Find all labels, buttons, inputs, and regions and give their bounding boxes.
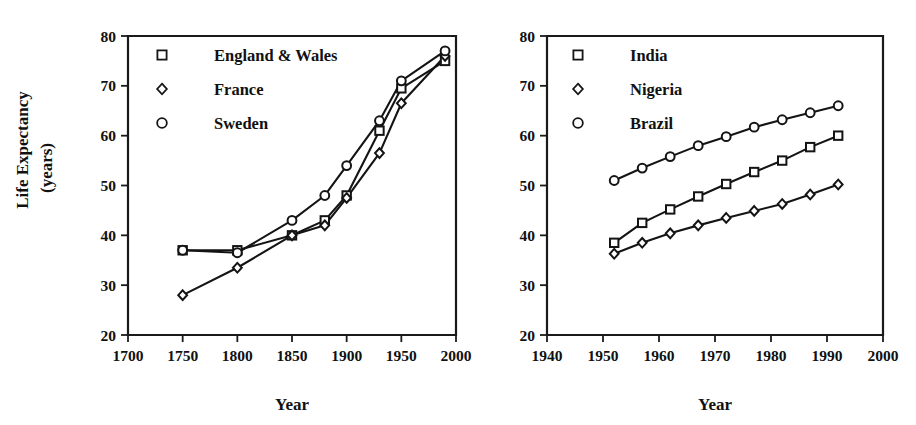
x-tick-label-1700: 1700 <box>113 347 144 364</box>
data-point-sweden-1900 <box>342 161 351 170</box>
data-point-england-wales-1930 <box>375 126 383 134</box>
data-point-india-1992 <box>834 131 842 139</box>
y-tick-label-70: 70 <box>101 77 117 94</box>
y-axis-title-left-line2: (years) <box>37 143 56 193</box>
data-point-brazil-1982 <box>778 115 787 124</box>
data-point-nigeria-1962 <box>666 229 675 239</box>
x-tick-label-1940: 1940 <box>532 347 563 364</box>
x-tick-label-1980: 1980 <box>756 347 787 364</box>
x-axis-title-right: Year <box>698 395 732 414</box>
legend-label-india: India <box>630 46 668 65</box>
legend-marker-india <box>573 50 582 59</box>
y-tick-label-30: 30 <box>520 277 536 294</box>
data-point-brazil-1957 <box>638 164 647 173</box>
x-tick-label-1950: 1950 <box>386 347 417 364</box>
y-tick-label-20: 20 <box>520 327 536 344</box>
data-point-india-1987 <box>806 143 814 151</box>
life-expectancy-figure: 1700175018001850190019502000 20304050607… <box>0 0 916 425</box>
y-tick-label-30: 30 <box>101 277 117 294</box>
data-point-india-1952 <box>610 239 618 247</box>
legend-marker-france <box>157 84 167 95</box>
legend-left: England & WalesFranceSweden <box>157 46 338 133</box>
x-tick-label-1960: 1960 <box>644 347 675 364</box>
series-line-india <box>614 136 838 243</box>
data-point-india-1972 <box>722 180 730 188</box>
y-axis-tick-labels-left: 20304050607080 <box>101 28 117 344</box>
data-point-brazil-1962 <box>666 152 675 161</box>
legend-label-england-wales: England & Wales <box>214 46 338 65</box>
data-point-nigeria-1982 <box>778 199 787 209</box>
y-tick-label-60: 60 <box>101 127 117 144</box>
legend-marker-nigeria <box>573 84 583 95</box>
data-point-sweden-1850 <box>288 216 297 225</box>
data-point-sweden-1750 <box>178 246 187 255</box>
x-axis-tick-labels-left: 1700175018001850190019502000 <box>113 347 472 364</box>
y-tick-label-40: 40 <box>101 227 117 244</box>
legend-marker-sweden <box>157 118 167 128</box>
x-tick-label-1970: 1970 <box>700 347 731 364</box>
chart-panel-right: 1940195019601970198019902000 20304050607… <box>520 28 899 415</box>
x-tick-label-1850: 1850 <box>277 347 308 364</box>
data-point-sweden-1990 <box>441 47 450 56</box>
data-point-sweden-1930 <box>375 116 384 125</box>
data-point-india-1962 <box>666 205 674 213</box>
data-point-brazil-1987 <box>806 108 815 117</box>
data-point-nigeria-1972 <box>722 213 731 223</box>
x-axis-title-left: Year <box>275 395 309 414</box>
data-point-india-1957 <box>638 219 646 227</box>
y-axis-tick-labels-right: 20304050607080 <box>520 28 536 344</box>
data-point-brazil-1972 <box>722 132 731 141</box>
y-tick-label-80: 80 <box>520 28 536 45</box>
data-point-india-1982 <box>778 156 786 164</box>
x-tick-label-1900: 1900 <box>331 347 362 364</box>
y-tick-label-50: 50 <box>520 177 536 194</box>
x-tick-label-1800: 1800 <box>222 347 253 364</box>
data-point-brazil-1992 <box>834 101 843 110</box>
legend-label-france: France <box>214 80 263 99</box>
y-tick-label-70: 70 <box>520 77 536 94</box>
x-tick-label-1990: 1990 <box>812 347 843 364</box>
data-point-nigeria-1957 <box>638 238 647 248</box>
x-tick-label-2000: 2000 <box>868 347 899 364</box>
data-point-nigeria-1952 <box>610 249 619 259</box>
legend-marker-england-wales <box>157 50 166 59</box>
data-point-nigeria-1977 <box>750 206 759 216</box>
legend-marker-brazil <box>573 118 583 128</box>
data-point-france-1800 <box>233 263 242 273</box>
y-tick-label-60: 60 <box>520 127 536 144</box>
x-tick-label-2000: 2000 <box>441 347 472 364</box>
figure-container: 1700175018001850190019502000 20304050607… <box>0 0 916 425</box>
x-axis-tick-labels-right: 1940195019601970198019902000 <box>532 347 899 364</box>
data-point-nigeria-1992 <box>834 180 843 190</box>
data-point-brazil-1967 <box>694 141 703 150</box>
legend-label-nigeria: Nigeria <box>630 80 682 99</box>
data-point-nigeria-1987 <box>806 190 815 200</box>
legend-right: IndiaNigeriaBrazil <box>573 46 682 133</box>
legend-label-brazil: Brazil <box>630 114 673 133</box>
x-tick-label-1750: 1750 <box>167 347 198 364</box>
y-axis-title-left-line1: Life Expectancy <box>13 91 32 209</box>
data-point-brazil-1977 <box>750 123 759 132</box>
x-tick-label-1950: 1950 <box>588 347 619 364</box>
y-tick-label-20: 20 <box>101 327 117 344</box>
y-tick-label-50: 50 <box>101 177 117 194</box>
data-point-india-1977 <box>750 168 758 176</box>
data-point-nigeria-1967 <box>694 221 703 231</box>
legend-label-sweden: Sweden <box>214 114 268 133</box>
y-tick-label-40: 40 <box>520 227 536 244</box>
data-point-sweden-1800 <box>233 248 242 257</box>
plot-frame-left <box>128 36 456 335</box>
data-point-france-1750 <box>178 290 187 300</box>
data-point-india-1967 <box>694 192 702 200</box>
chart-panel-left: 1700175018001850190019502000 20304050607… <box>13 28 472 415</box>
data-point-sweden-1950 <box>397 76 406 85</box>
data-point-brazil-1952 <box>610 176 619 185</box>
y-tick-label-80: 80 <box>101 28 117 45</box>
data-point-sweden-1880 <box>320 191 329 200</box>
